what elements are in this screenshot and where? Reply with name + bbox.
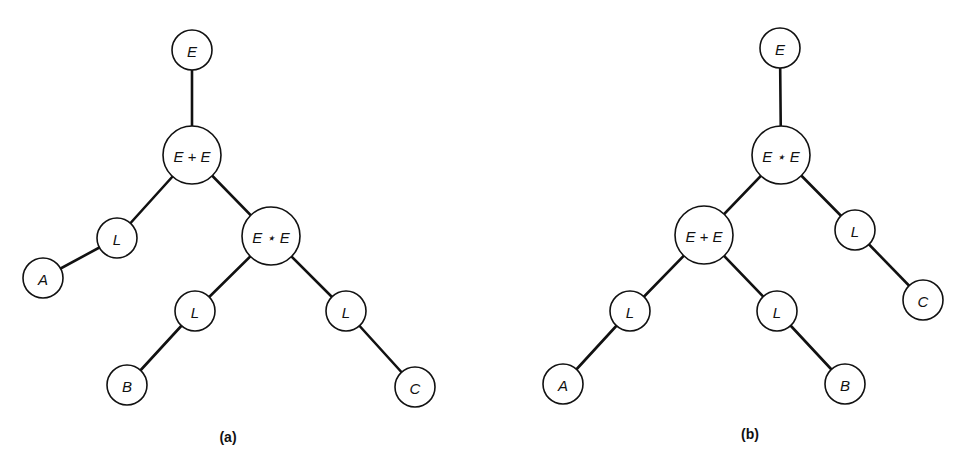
tree-node: E [172, 30, 212, 70]
tree-node: E ⋆ E [752, 126, 810, 184]
node-label: B [122, 378, 132, 395]
tree-node: A [23, 258, 63, 298]
node-label: C [918, 293, 929, 310]
node-label: L [191, 304, 199, 321]
node-label: C [410, 380, 421, 397]
tree-node: L [610, 291, 650, 331]
node-label: B [840, 377, 850, 394]
node-label: L [342, 304, 350, 321]
node-label: E + E [685, 228, 723, 245]
tree-node: E + E [163, 126, 221, 184]
node-label: L [626, 304, 634, 321]
parse-tree-diagram: EE + ELE ⋆ EALLBC(a) EE ⋆ EE + ELLLCAB(b… [0, 0, 964, 468]
node-label: L [851, 223, 859, 240]
figure-caption-b: (b) [741, 426, 759, 442]
tree-node: E [760, 28, 800, 68]
node-label: A [37, 271, 48, 288]
tree-node: L [326, 291, 366, 331]
tree-node: E ⋆ E [242, 207, 300, 265]
node-label: E ⋆ E [252, 229, 290, 246]
parse-tree-a: EE + ELE ⋆ EALLBC(a) [23, 30, 435, 445]
tree-node: E + E [675, 206, 733, 264]
node-label: L [113, 231, 121, 248]
tree-node: L [757, 291, 797, 331]
tree-node: L [97, 218, 137, 258]
node-label: L [773, 304, 781, 321]
tree-node: B [825, 364, 865, 404]
figure-caption-a: (a) [219, 429, 236, 445]
node-label: E + E [173, 148, 211, 165]
tree-node: C [395, 367, 435, 407]
node-label: E [775, 41, 786, 58]
edges-a [43, 50, 415, 387]
tree-node: B [107, 365, 147, 405]
node-label: E [187, 43, 198, 60]
tree-node: A [543, 364, 583, 404]
node-label: A [557, 377, 568, 394]
tree-node: L [835, 210, 875, 250]
tree-node: C [903, 280, 943, 320]
node-label: E ⋆ E [762, 148, 800, 165]
parse-tree-b: EE ⋆ EE + ELLLCAB(b) [543, 28, 943, 442]
tree-node: L [175, 291, 215, 331]
